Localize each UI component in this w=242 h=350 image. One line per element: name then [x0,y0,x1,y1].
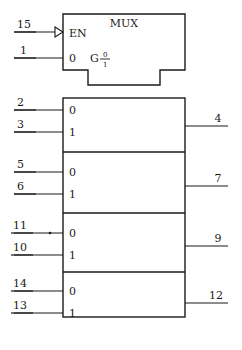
section-4-output-pin: 12 [209,289,223,302]
section-4-input-0-pin: 14 [13,277,27,290]
section-4-input-0-label: 0 [69,285,76,298]
section-1-input-0-label: 0 [69,104,76,117]
section-2-input-0-pin: 5 [17,158,24,171]
section-3-input-0-label: 0 [69,227,76,240]
select-label: 0 [69,52,76,65]
common-control-label: G [90,52,99,65]
diagram-canvas: MUX EN 15 1 0 G 0 1 2 0 3 [0,0,242,350]
negation-triangle-icon [55,27,63,37]
section-3-input-1-label: 1 [69,249,76,262]
mux-title: MUX [110,17,139,30]
section-3-input-1-pin: 10 [13,241,27,254]
section-1-input-1-pin: 3 [17,118,24,131]
section-1-output-pin: 4 [215,112,222,125]
select-pin-number: 1 [20,44,27,57]
section-2-input-0-label: 0 [69,166,76,179]
section-1-input-1-label: 1 [69,126,76,139]
section-2-input-1-pin: 6 [17,180,24,193]
section-4-input-1-label: 1 [69,307,76,320]
common-control-numerator: 0 [103,51,107,59]
mux-logic-symbol: MUX EN 15 1 0 G 0 1 2 0 3 [0,0,242,350]
section-3-output-pin: 9 [215,232,222,245]
enable-label: EN [69,27,87,40]
section-2-output-pin: 7 [215,172,222,185]
enable-pin-number: 15 [17,18,31,31]
common-control-denominator: 1 [103,61,107,69]
section-4-input-1-pin: 13 [13,299,27,312]
section-1-input-0-pin: 2 [17,96,24,109]
main-body-outline [63,98,185,317]
section-3-input-0-junction-dot-icon [49,232,52,235]
section-3-input-0-pin: 11 [13,219,27,232]
section-2-input-1-label: 1 [69,188,76,201]
